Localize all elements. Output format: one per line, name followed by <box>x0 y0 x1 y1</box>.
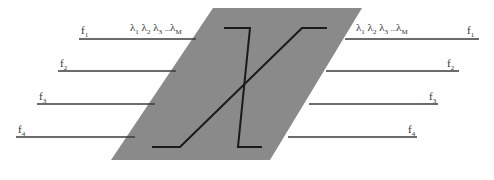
input-fiber-3-label: f3 <box>39 90 47 105</box>
output-wavelength-labels: λ1 λ2 λ3 ...λM <box>356 21 408 36</box>
optical-switch-diagram: f1 f2 f3 f4 f1 f2 f3 f4 λ1 λ2 λ3 ...λM λ… <box>0 0 494 180</box>
output-fiber-4-label: f4 <box>408 123 416 138</box>
input-wavelength-labels: λ1 λ2 λ3 ...λM <box>130 21 182 36</box>
input-fiber-4-label: f4 <box>18 123 26 138</box>
output-fiber-1-label: f1 <box>467 24 475 39</box>
input-fiber-2-label: f2 <box>60 57 68 72</box>
input-fiber-1-label: f1 <box>81 24 89 39</box>
output-fiber-3-label: f3 <box>429 90 437 105</box>
output-fiber-2-label: f2 <box>447 57 455 72</box>
